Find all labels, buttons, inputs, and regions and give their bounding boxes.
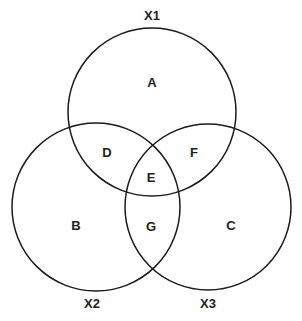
region-label-d: D xyxy=(102,145,111,160)
region-label-f: F xyxy=(190,145,198,160)
region-label-c: C xyxy=(226,218,236,233)
region-label-a: A xyxy=(147,75,157,90)
set-label-x1: X1 xyxy=(144,8,160,23)
set-circle-x3 xyxy=(125,124,291,290)
region-label-b: B xyxy=(71,218,80,233)
region-label-g: G xyxy=(146,219,156,234)
set-label-x2: X2 xyxy=(84,296,100,311)
set-circle-x2 xyxy=(12,123,180,291)
venn-diagram: X1 X2 X3 A B C D E F G xyxy=(0,0,302,321)
region-label-e: E xyxy=(147,170,156,185)
set-label-x3: X3 xyxy=(200,296,216,311)
